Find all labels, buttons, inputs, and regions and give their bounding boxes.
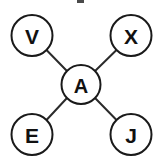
node-x-label: X bbox=[124, 25, 138, 48]
node-a[interactable]: A bbox=[62, 65, 101, 104]
node-v[interactable]: V bbox=[12, 15, 53, 56]
graph-canvas: V X E J A bbox=[0, 0, 163, 167]
node-j-label: J bbox=[125, 124, 137, 147]
node-e[interactable]: E bbox=[12, 114, 53, 155]
edge-a-to-j bbox=[95, 98, 117, 120]
star-graph-diagram: V X E J A bbox=[0, 0, 163, 167]
node-group: V X E J A bbox=[12, 15, 152, 155]
node-x[interactable]: X bbox=[111, 15, 152, 56]
edge-a-to-e bbox=[47, 98, 68, 120]
node-a-label: A bbox=[74, 75, 88, 97]
edge-a-to-x bbox=[95, 50, 117, 71]
node-e-label: E bbox=[25, 124, 39, 147]
edge-a-to-v bbox=[47, 50, 68, 71]
top-edge-artifact bbox=[77, 0, 84, 3]
node-v-label: V bbox=[25, 25, 39, 48]
node-j[interactable]: J bbox=[111, 114, 152, 155]
